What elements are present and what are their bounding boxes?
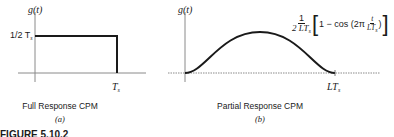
panel-a-level-text: 1/2 T: [10, 30, 30, 40]
panel-b-y-label: g(t): [178, 5, 192, 15]
formula-prefactor-den-text: 2 LT: [292, 23, 309, 33]
panel-a-title: Full Response CPM: [20, 102, 100, 111]
panel-a-pulse: [35, 36, 117, 73]
panel-a-tag: (a): [20, 115, 100, 124]
formula-bracket-open: [: [312, 13, 318, 35]
panel-b-x-end-sub: s: [338, 87, 340, 93]
figure-caption: FIGURE 5.10.2: [0, 130, 68, 137]
panel-b-tag: (b): [215, 115, 305, 124]
formula-paren-close: ): [379, 19, 382, 29]
formula-bracket-close: ]: [383, 13, 389, 35]
panel-b-x-end-label: LTs: [327, 82, 340, 92]
formula-inner-frac: t LTs: [367, 15, 378, 32]
panel-a-x-end-text: T: [112, 81, 118, 92]
formula-inner-den-sub: s: [375, 27, 377, 33]
panel-a-y-label: g(t): [28, 5, 42, 15]
formula-inner-den: LTs: [367, 24, 378, 32]
formula-prefactor-den: 2 LTs: [292, 24, 311, 34]
panel-b-title: Partial Response CPM: [215, 102, 305, 111]
formula-prefactor: 1 2 LTs: [292, 14, 311, 34]
pulse-formula: 1 2 LTs [ 1 − cos (2π t LTs ) ]: [292, 13, 390, 35]
panel-b-curve: [185, 32, 335, 73]
panel-b-x-end-text: LT: [327, 81, 338, 92]
panel-a-level-label: 1/2 Ts: [10, 31, 33, 40]
formula-prefactor-den-sub: s: [309, 28, 311, 34]
panel-a-x-end-label: Ts: [112, 82, 120, 92]
panel-a-level-sub: s: [30, 35, 32, 41]
formula-body: 1 − cos (2π: [319, 19, 365, 29]
panel-a-x-end-sub: s: [118, 87, 120, 93]
